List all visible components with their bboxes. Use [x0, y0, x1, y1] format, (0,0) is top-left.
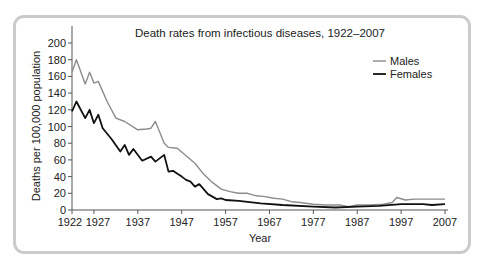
legend: MalesFemales [373, 55, 433, 80]
x-tick-label: 1977 [301, 216, 325, 228]
legend-label-males: Males [390, 55, 420, 67]
x-tick-label: 1967 [257, 216, 281, 228]
chart-title: Death rates from infectious diseases, 19… [135, 27, 385, 39]
y-tick-label: 20 [54, 187, 66, 199]
y-tick-label: 160 [48, 70, 66, 82]
series-line-males [72, 60, 445, 207]
y-tick-label: 140 [48, 87, 66, 99]
x-tick-label: 1957 [213, 216, 237, 228]
y-tick-label: 180 [48, 54, 66, 66]
y-tick-label: 80 [54, 137, 66, 149]
x-tick-label: 1947 [169, 216, 193, 228]
y-tick-label: 200 [48, 37, 66, 49]
x-axis-title: Year [249, 232, 272, 244]
x-tick-label: 2007 [433, 216, 457, 228]
x-tick-label: 1997 [389, 216, 413, 228]
line-chart: Death rates from infectious diseases, 19… [0, 0, 484, 267]
y-tick-label: 0 [60, 204, 66, 216]
x-tick-label: 1987 [345, 216, 369, 228]
x-tick-label: 1937 [126, 216, 150, 228]
series-line-females [72, 102, 445, 208]
x-tick-label: 1922 [58, 216, 82, 228]
y-tick-label: 60 [54, 154, 66, 166]
legend-label-females: Females [390, 68, 433, 80]
x-tick-label: 1927 [86, 216, 110, 228]
y-tick-label: 100 [48, 121, 66, 133]
y-tick-label: 40 [54, 171, 66, 183]
y-axis-title: Deaths per 100,000 population [30, 51, 42, 201]
data-lines [72, 60, 445, 208]
y-tick-label: 120 [48, 104, 66, 116]
